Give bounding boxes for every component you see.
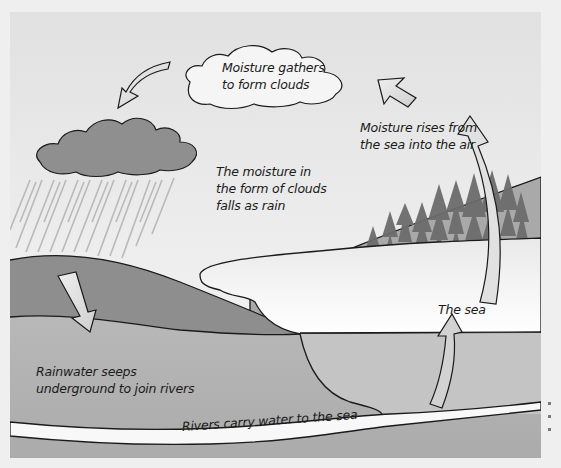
label-rain: The moisture in the form of clouds falls… bbox=[216, 163, 327, 214]
label-line: Moisture gathers bbox=[222, 59, 325, 76]
label-sea: The sea bbox=[438, 301, 486, 318]
label-line: falls as rain bbox=[216, 197, 327, 214]
label-line: to form clouds bbox=[222, 76, 325, 93]
water-cycle-diagram: Moisture gathers to form clouds Moisture… bbox=[10, 12, 541, 458]
page-edge-marks bbox=[548, 402, 554, 442]
label-clouds-gather: Moisture gathers to form clouds bbox=[222, 59, 325, 93]
label-line: the form of clouds bbox=[216, 180, 327, 197]
label-line: The moisture in bbox=[216, 163, 327, 180]
label-rises: Moisture rises from the sea into the air bbox=[360, 119, 477, 153]
label-seeps: Rainwater seeps underground to join rive… bbox=[36, 363, 194, 397]
label-line: underground to join rivers bbox=[36, 380, 194, 397]
label-line: Moisture rises from bbox=[360, 119, 477, 136]
label-line: the sea into the air bbox=[360, 136, 477, 153]
label-line: Rainwater seeps bbox=[36, 363, 194, 380]
